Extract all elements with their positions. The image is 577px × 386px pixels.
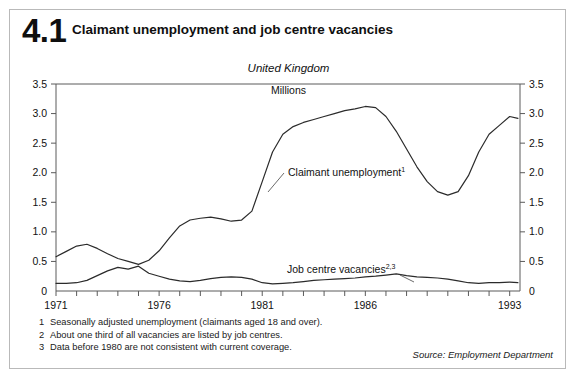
- footnote-number: 2: [39, 329, 50, 342]
- footnote-number: 1: [39, 316, 50, 329]
- figure-panel: 4.1 Claimant unemployment and job centre…: [9, 9, 566, 369]
- plot-frame: [56, 84, 520, 291]
- y-tick-label-right: 1.5: [529, 196, 544, 208]
- vacancies-series-label: Job centre vacancies2,3: [287, 263, 395, 275]
- y-tick-label-left: 2.0: [32, 166, 47, 178]
- y-tick-label-right: 2.0: [529, 166, 544, 178]
- footnote-text: Data before 1980 are not consistent with…: [50, 342, 292, 352]
- y-tick-label-left: 0.5: [32, 255, 47, 267]
- series-line: [56, 106, 518, 264]
- footnote-number: 3: [39, 341, 50, 354]
- y-tick-label-left: 3.0: [32, 107, 47, 119]
- claimant-series-label: Claimant unemployment1: [288, 166, 405, 178]
- y-tick-label-left: 1.0: [32, 225, 47, 237]
- y-tick-label-left: 2.5: [32, 137, 47, 149]
- y-tick-label-right: 0.5: [529, 255, 544, 267]
- series-annotations: Claimant unemployment1Job centre vacanci…: [268, 166, 414, 282]
- x-tick-label: 1976: [147, 299, 171, 311]
- y-tick-label-right: 3.0: [529, 107, 544, 119]
- footnote-item: 1Seasonally adjusted unemployment (claim…: [39, 316, 519, 329]
- line-chart: 00.51.01.52.02.53.03.5 00.51.01.52.02.53…: [10, 56, 567, 311]
- x-axis: 19711976198119861993: [44, 291, 521, 311]
- footnote-item: 2About one third of all vacancies are li…: [39, 329, 519, 342]
- y-tick-label-left: 3.5: [32, 78, 47, 90]
- x-tick-label: 1971: [44, 299, 68, 311]
- y-tick-label-right: 2.5: [529, 137, 544, 149]
- figure-header: 4.1 Claimant unemployment and job centre…: [10, 10, 565, 56]
- figure-number: 4.1: [22, 12, 66, 50]
- footnote-text: Seasonally adjusted unemployment (claima…: [50, 317, 322, 327]
- y-tick-label-left: 1.5: [32, 196, 47, 208]
- figure-title: Claimant unemployment and job centre vac…: [72, 22, 393, 37]
- x-tick-label: 1993: [498, 299, 522, 311]
- y-axis-right: 00.51.01.52.02.53.03.5: [520, 78, 544, 297]
- y-tick-label-right: 3.5: [529, 78, 544, 90]
- y-tick-label-right: 0: [529, 285, 535, 297]
- y-axis-left: 00.51.01.52.02.53.03.5: [32, 78, 56, 297]
- y-tick-label-right: 1.0: [529, 225, 544, 237]
- source-attribution: Source: Employment Department: [413, 349, 553, 360]
- footnote-text: About one third of all vacancies are lis…: [50, 330, 283, 340]
- x-tick-label: 1986: [354, 299, 378, 311]
- x-tick-label: 1981: [251, 299, 275, 311]
- chart-plot-region: United Kingdom Millions 00.51.01.52.02.5…: [10, 56, 567, 311]
- series-lines: [56, 106, 518, 283]
- y-tick-label-left: 0: [41, 285, 47, 297]
